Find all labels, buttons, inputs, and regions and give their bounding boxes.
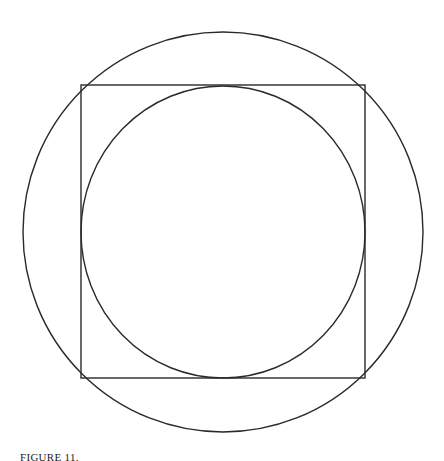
caption-label: FIGURE 11.	[20, 451, 79, 461]
geometry-svg	[0, 0, 444, 461]
figure-caption: FIGURE 11.	[20, 451, 79, 461]
inner-circle	[81, 86, 365, 378]
outer-circle	[23, 32, 423, 432]
figure-diagram	[0, 0, 444, 461]
inscribed-square	[81, 85, 365, 378]
